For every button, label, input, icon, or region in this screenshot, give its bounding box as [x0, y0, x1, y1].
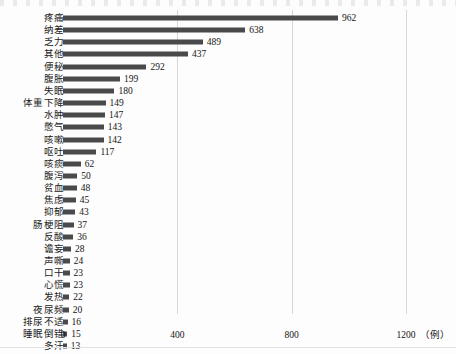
bar-row: 贫血48 — [0, 182, 456, 194]
bar — [63, 319, 68, 324]
category-label: 纳差 — [44, 25, 64, 35]
category-label: 心慌 — [44, 280, 64, 290]
bar-value-label: 43 — [79, 207, 89, 217]
bar-row: 发热22 — [0, 291, 456, 303]
bar-row: 其他437 — [0, 48, 456, 60]
bar — [63, 16, 338, 21]
bar — [63, 149, 96, 154]
bar-row: 咳痰62 — [0, 158, 456, 170]
bar-row: 憋气143 — [0, 121, 456, 133]
category-label: 反酸 — [44, 232, 64, 242]
bar-value-label: 23 — [74, 280, 84, 290]
category-label: 贫血 — [44, 183, 64, 193]
category-label: 水肿 — [44, 110, 64, 120]
bar-value-label: 142 — [108, 135, 122, 145]
bar-row: 反酸36 — [0, 231, 456, 243]
bar — [63, 113, 105, 118]
bar-value-label: 28 — [75, 244, 85, 254]
bar-row: 咳嗽142 — [0, 134, 456, 146]
category-label: 其他 — [44, 49, 64, 59]
bar-value-label: 143 — [108, 122, 122, 132]
bar-row: 谵妄28 — [0, 243, 456, 255]
bar — [63, 210, 75, 215]
axis-baseline — [0, 347, 456, 348]
bar — [63, 198, 76, 203]
bar-value-label: 15 — [71, 329, 81, 339]
category-label: 睡眠倒错 — [23, 329, 64, 339]
chart-page: 疼痛962纳差638乏力489其他437便秘292腹胀199失眠180体重下降1… — [0, 0, 456, 354]
category-label: 腹胀 — [44, 74, 64, 84]
bar-row: 排尿不适16 — [0, 316, 456, 328]
bar — [63, 125, 104, 130]
category-label: 呕吐 — [44, 147, 64, 157]
category-label: 咳痰 — [44, 159, 64, 169]
bar-row: 腹泻50 — [0, 170, 456, 182]
category-label: 腹泻 — [44, 171, 64, 181]
bar-row: 水肿147 — [0, 109, 456, 121]
bar — [63, 28, 245, 33]
bar-value-label: 180 — [118, 86, 132, 96]
bar-value-label: 36 — [77, 232, 87, 242]
bar-row: 呕吐117 — [0, 146, 456, 158]
category-label: 焦虑 — [44, 195, 64, 205]
bar-value-label: 489 — [207, 37, 221, 47]
bar-value-label: 638 — [249, 25, 263, 35]
category-label: 声嘶 — [44, 256, 64, 266]
bar-chart-plot-area: 疼痛962纳差638乏力489其他437便秘292腹胀199失眠180体重下降1… — [0, 0, 456, 354]
category-label: 口干 — [44, 268, 64, 278]
category-label: 谵妄 — [44, 244, 64, 254]
category-label: 憋气 — [44, 122, 64, 132]
category-label: 夜尿频 — [33, 305, 64, 315]
bar — [63, 101, 106, 106]
bar-row: 便秘292 — [0, 61, 456, 73]
bar-row: 声嘶24 — [0, 255, 456, 267]
bar — [63, 40, 203, 45]
bar — [63, 186, 77, 191]
bar — [63, 161, 81, 166]
bar — [63, 137, 104, 142]
bar — [63, 88, 114, 93]
bar — [63, 259, 70, 264]
bar-value-label: 962 — [342, 13, 356, 23]
category-label: 疼痛 — [44, 13, 64, 23]
bar-row: 纳差638 — [0, 24, 456, 36]
bar — [63, 271, 70, 276]
category-label: 排尿不适 — [23, 317, 64, 327]
x-axis-unit-label: （例） — [420, 330, 450, 341]
bar-value-label: 48 — [81, 183, 91, 193]
category-label: 体重下降 — [23, 98, 64, 108]
bar — [63, 307, 69, 312]
bar — [63, 52, 188, 57]
bar — [63, 222, 74, 227]
bar-value-label: 199 — [124, 74, 138, 84]
bar-row: 乏力489 — [0, 36, 456, 48]
bar-value-label: 37 — [78, 220, 88, 230]
bar — [63, 295, 69, 300]
x-tick-label-1200: 1200 — [397, 330, 416, 341]
category-label: 肠梗阻 — [33, 220, 64, 230]
category-label: 发热 — [44, 292, 64, 302]
bar — [63, 246, 71, 251]
category-label: 乏力 — [44, 37, 64, 47]
bar-value-label: 62 — [85, 159, 95, 169]
bar-value-label: 117 — [100, 147, 114, 157]
bar-row: 心慌23 — [0, 279, 456, 291]
bar-value-label: 437 — [192, 49, 206, 59]
category-label: 失眠 — [44, 86, 64, 96]
bar-row: 焦虑45 — [0, 194, 456, 206]
bar-row: 抑郁43 — [0, 206, 456, 218]
bar — [63, 64, 146, 69]
bar — [63, 234, 73, 239]
bar-row: 口干23 — [0, 267, 456, 279]
bar-value-label: 20 — [73, 305, 83, 315]
bar-row: 睡眠倒错15 — [0, 328, 456, 340]
x-tick-label-400: 400 — [170, 330, 184, 341]
bar-row: 夜尿频20 — [0, 304, 456, 316]
bar — [63, 76, 120, 81]
bar-row: 体重下降149 — [0, 97, 456, 109]
bar-value-label: 22 — [73, 292, 83, 302]
bar-row: 肠梗阻37 — [0, 219, 456, 231]
bar-value-label: 149 — [110, 98, 124, 108]
bar-row: 腹胀199 — [0, 73, 456, 85]
bar-value-label: 50 — [81, 171, 91, 181]
